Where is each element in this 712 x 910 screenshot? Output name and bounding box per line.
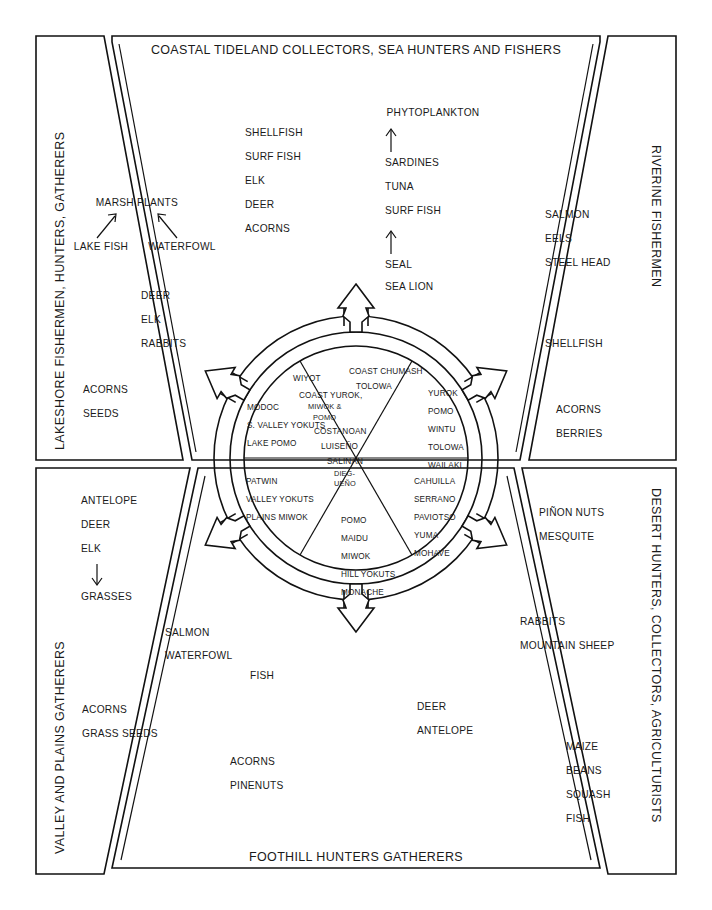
tribe-label: WINTU [428, 425, 456, 434]
resource-item: SALMON [165, 627, 210, 638]
resource-item: ELK [81, 543, 101, 554]
resource-item: MOUNTAIN SHEEP [520, 640, 614, 651]
tribe-label: YUROK [428, 389, 458, 398]
food-chain-top: PHYTOPLANKTON [387, 107, 480, 118]
resource-item: MESQUITE [539, 531, 594, 542]
tribe-label: SERRANO [414, 495, 456, 504]
resource-item: ANTELOPE [417, 725, 473, 736]
resource-item: EELS [545, 233, 572, 244]
resource-item: FISH [250, 670, 274, 681]
tribe-label: UEÑO [334, 479, 356, 488]
resource-item: DEER [245, 199, 274, 210]
resource-item: STEEL HEAD [545, 257, 611, 268]
resource-item: SQUASH [566, 789, 611, 800]
resource-item: SEAL [385, 259, 412, 270]
tribe-label: WAILAKI [428, 461, 462, 470]
tribe-label: WIYOT [293, 374, 321, 383]
tribe-label: SALINAN [327, 457, 363, 466]
tribe-label: S. VALLEY YOKUTS [247, 421, 326, 430]
tribe-label: LUISEÑO [321, 441, 358, 451]
tribe-label: PLAINS MIWOK [246, 513, 308, 522]
resource-item: ANTELOPE [81, 495, 137, 506]
resource-item: BEANS [566, 765, 602, 776]
resource-item: RABBITS [520, 616, 565, 627]
resource-item: MAIZE [566, 741, 598, 752]
resource-item: ELK [141, 314, 161, 325]
resource-item: ACORNS [245, 223, 290, 234]
tribe-label: YUMA [414, 531, 439, 540]
resource-item: DEER [81, 519, 110, 530]
title-coastal: COASTAL TIDELAND COLLECTORS, SEA HUNTERS… [151, 43, 561, 57]
tribe-label: LAKE POMO [247, 439, 297, 448]
resource-item: SALMON [545, 209, 590, 220]
panel-foothill [112, 468, 600, 868]
title-foothill: FOOTHILL HUNTERS GATHERERS [249, 850, 463, 864]
foothill-fish-list: FISH [250, 670, 274, 681]
tribe-label: MIWOK [341, 552, 371, 561]
diagram-canvas: COASTAL TIDELAND COLLECTORS, SEA HUNTERS… [0, 0, 712, 910]
tribe-label: HILL YOKUTS [341, 570, 396, 579]
title-desert: DESERT HUNTERS, COLLECTORS, AGRICULTURIS… [649, 488, 663, 823]
resource-item: SARDINES [385, 157, 439, 168]
tribe-label: PATWIN [246, 477, 278, 486]
california-subsistence-diagram: COASTAL TIDELAND COLLECTORS, SEA HUNTERS… [0, 0, 712, 910]
tribe-label: MAIDU [341, 534, 368, 543]
resource-item: DEER [417, 701, 446, 712]
tribe-label: COAST CHUMASH [349, 367, 423, 376]
tribe-label: DIEG- [334, 469, 355, 478]
resource-item: SHELLFISH [545, 338, 603, 349]
resource-item: PINENUTS [230, 780, 284, 791]
panel-foothill-outline [112, 468, 600, 868]
resource-item: LAKE FISH [74, 241, 128, 252]
tribe-label: POMO [428, 407, 454, 416]
resource-item: WATERFOWL [165, 650, 232, 661]
resource-item: ACORNS [556, 404, 601, 415]
title-riverine: RIVERINE FISHERMEN [649, 145, 663, 287]
resource-item: GRASSES [81, 591, 132, 602]
resource-item: DEER [141, 290, 170, 301]
resource-item: SURF FISH [385, 205, 441, 216]
tribe-label: PAVIOTSO [414, 513, 456, 522]
title-lakeshore: LAKESHORE FISHERMEN, HUNTERS, GATHERERS [53, 132, 67, 450]
resource-item: TUNA [385, 181, 414, 192]
title-valley: VALLEY AND PLAINS GATHERERS [53, 641, 67, 854]
resource-item: RABBITS [141, 338, 186, 349]
tribe-label: COAST YUROK, [299, 391, 362, 400]
resource-item: SEEDS [83, 408, 119, 419]
resource-item: WATERFOWL [148, 241, 215, 252]
resource-item: SURF FISH [245, 151, 301, 162]
resource-item: ACORNS [82, 704, 127, 715]
resource-item: PIÑON NUTS [539, 506, 604, 518]
tribe-label: MOHAVE [414, 549, 450, 558]
tribe-label: MONACHE [341, 588, 384, 597]
resource-item: ACORNS [230, 756, 275, 767]
tribe-label: TOLOWA [356, 382, 392, 391]
tribe-label: TOLOWA [428, 443, 464, 452]
tribe-label: POMO [341, 516, 367, 525]
tribe-label: MODOC [247, 403, 279, 412]
resource-item: ELK [245, 175, 265, 186]
tribe-label: MIWOK & [308, 402, 342, 411]
resource-item: SEA LION [385, 281, 433, 292]
resource-item: GRASS SEEDS [82, 728, 158, 739]
resource-item: FISH [566, 813, 590, 824]
resource-item: BERRIES [556, 428, 602, 439]
resource-item: SHELLFISH [245, 127, 303, 138]
tribe-label: CAHUILLA [414, 477, 456, 486]
resource-item: ACORNS [83, 384, 128, 395]
riverine-shellfish-list: SHELLFISH [545, 338, 603, 349]
tribe-label: VALLEY YOKUTS [246, 495, 314, 504]
food-chain-top: MARSH PLANTS [96, 197, 178, 208]
